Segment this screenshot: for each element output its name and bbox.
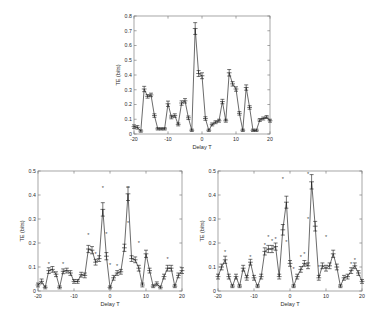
data-series-line <box>218 182 362 286</box>
errorbar-group <box>169 265 174 271</box>
errorbar-group <box>104 253 109 260</box>
errorbar-group <box>166 101 171 106</box>
y-tick-label: 0.2 <box>29 240 36 246</box>
y-tick-label: 0.4 <box>125 72 132 78</box>
x-tick-label: 10 <box>143 293 149 299</box>
significance-star: * <box>307 216 310 222</box>
y-tick-label: 0.5 <box>29 168 36 174</box>
plot-box <box>38 171 182 291</box>
errorbar-group <box>280 225 285 236</box>
errorbar-group <box>57 286 62 289</box>
errorbar-group <box>230 285 235 288</box>
x-tick-label: -10 <box>250 293 258 299</box>
chart-panel-bottom-left: 00.10.20.30.40.5-20-1001020Delay TTE (bi… <box>10 163 188 320</box>
significance-star: * <box>62 261 65 267</box>
errorbar-group <box>320 263 325 269</box>
y-tick-label: 0.2 <box>209 240 216 246</box>
y-axis-title: TE (bits) <box>115 64 121 85</box>
x-tick-label: 10 <box>233 136 239 142</box>
significance-star: * <box>109 262 112 268</box>
errorbar-group <box>227 70 232 76</box>
x-axis-title: Delay T <box>192 144 212 150</box>
significance-star: * <box>307 171 310 177</box>
significance-star: * <box>285 239 288 245</box>
errorbar-group <box>206 129 211 131</box>
significance-star: * <box>116 263 119 269</box>
errorbar-group <box>247 106 252 110</box>
y-tick-label: 0.1 <box>29 264 36 270</box>
errorbar-group <box>342 275 347 280</box>
chart-panel-top: 00.10.20.30.40.50.60.70.8-20-1001020Dela… <box>108 8 276 163</box>
errorbar-group <box>324 265 329 271</box>
errorbar-group <box>327 263 332 269</box>
errorbar-group <box>203 117 208 121</box>
errorbar-group <box>43 286 48 289</box>
errorbar-group <box>216 274 221 279</box>
errorbar-group <box>234 274 239 279</box>
significance-star: * <box>95 251 98 257</box>
errorbar-group <box>142 86 147 91</box>
errorbar-group <box>223 256 228 263</box>
x-tick-label: -20 <box>130 136 138 142</box>
y-tick-label: 0.5 <box>209 168 216 174</box>
errorbar-group <box>252 275 257 280</box>
plot-box <box>218 171 362 291</box>
significance-star: * <box>271 238 274 244</box>
y-tick-label: 0.6 <box>125 42 132 48</box>
errorbar-group <box>356 271 361 276</box>
errorbar-group <box>140 283 145 287</box>
errorbar-group <box>158 286 163 289</box>
errorbar-group <box>298 267 303 273</box>
significance-star: * <box>282 176 285 182</box>
errorbar-group <box>268 119 273 122</box>
errorbar-group <box>295 274 300 279</box>
significance-star: * <box>48 261 51 267</box>
y-tick-label: 0.3 <box>125 87 132 93</box>
errorbar-group <box>122 244 127 251</box>
significance-star: * <box>249 254 252 260</box>
errorbar-group <box>189 129 194 131</box>
errorbar-group <box>108 286 113 289</box>
errorbar-group <box>259 274 264 279</box>
errorbar-group <box>248 259 253 265</box>
errorbar-group <box>234 87 239 91</box>
x-tick-label: -20 <box>214 293 222 299</box>
errorbar-group <box>277 274 282 279</box>
y-tick-label: 0.8 <box>125 13 132 19</box>
errorbar-group <box>284 196 289 208</box>
errorbar-group <box>147 268 152 273</box>
significance-star: * <box>325 234 328 240</box>
errorbar-group <box>360 279 365 283</box>
errorbar-group <box>345 274 350 279</box>
errorbar-group <box>237 112 242 116</box>
significance-star: * <box>318 264 321 270</box>
significance-star: * <box>102 185 105 191</box>
y-tick-label: 0.5 <box>125 57 132 63</box>
errorbar-group <box>183 99 188 103</box>
y-tick-label: 0.4 <box>209 192 216 198</box>
errorbar-group <box>313 221 318 231</box>
significance-star: * <box>127 185 130 191</box>
significance-star: * <box>105 231 108 237</box>
errorbar-group <box>46 268 51 274</box>
errorbar-group <box>302 261 307 267</box>
significance-star: * <box>354 257 357 263</box>
errorbar-group <box>111 275 116 280</box>
errorbar-group <box>220 99 225 103</box>
y-tick-label: 0.7 <box>125 28 132 34</box>
errorbar-group <box>241 265 246 271</box>
errorbar-group <box>115 271 120 276</box>
x-tick-label: 20 <box>359 293 365 299</box>
errorbar-group <box>144 250 149 257</box>
errorbar-group <box>68 271 73 276</box>
figure-container: 00.10.20.30.40.50.60.70.8-20-1001020Dela… <box>0 0 378 322</box>
errorbar-group <box>230 82 235 86</box>
errorbar-group <box>136 265 141 271</box>
errorbar-group <box>223 119 228 122</box>
errorbar-group <box>75 279 80 283</box>
errorbar-group <box>118 269 123 274</box>
y-tick-label: 0.1 <box>125 116 132 122</box>
errorbar-group <box>309 175 314 189</box>
significance-star: * <box>264 242 267 248</box>
errorbar-group <box>237 285 242 288</box>
